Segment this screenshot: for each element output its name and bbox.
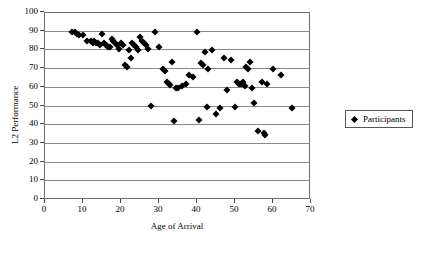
y-tick-label: 20 [12,157,38,166]
plot-area [44,12,310,199]
y-tick-mark [40,48,44,49]
y-tick-mark [40,86,44,87]
data-point [195,116,202,123]
scatter-chart: 0102030405060708090100 010203040506070 A… [0,0,431,256]
x-tick-mark [82,199,83,203]
legend-diamond-icon [351,115,358,122]
legend-label-participants: Participants [363,114,406,124]
gridline-y [45,31,309,32]
x-tick-mark [272,199,273,203]
data-point [148,102,155,109]
gridline-y [45,143,309,144]
x-tick-mark [310,199,311,203]
data-point [212,110,219,117]
gridline-y [45,180,309,181]
data-point [203,103,210,110]
data-point [125,47,132,54]
x-tick-label: 60 [262,205,282,214]
y-tick-mark [40,179,44,180]
gridline-y [45,49,309,50]
y-tick-label: 10 [12,175,38,184]
x-tick-label: 0 [34,205,54,214]
x-tick-label: 70 [300,205,320,214]
y-tick-mark [40,11,44,12]
x-axis-title: Age of Arrival [87,221,267,231]
y-tick-label: 100 [12,7,38,16]
data-point [269,66,276,73]
y-tick-mark [40,30,44,31]
data-point [169,58,176,65]
x-tick-label: 40 [186,205,206,214]
data-point [193,28,200,35]
x-tick-mark [44,199,45,203]
y-axis-title: L2 Performance [10,85,20,143]
x-tick-mark [234,199,235,203]
y-tick-mark [40,142,44,143]
x-tick-label: 50 [224,205,244,214]
y-tick-label: 80 [12,44,38,53]
data-point [249,84,256,91]
data-point [201,49,208,56]
x-tick-mark [196,199,197,203]
y-tick-mark [40,67,44,68]
data-point [262,131,269,138]
data-point [190,73,197,80]
data-point [231,103,238,110]
y-tick-label: 70 [12,63,38,72]
y-tick-label: 0 [12,194,38,203]
data-point [205,66,212,73]
gridline-y [45,124,309,125]
data-point [228,56,235,63]
data-point [220,54,227,61]
data-point [127,54,134,61]
data-point [123,64,130,71]
data-point [135,47,142,54]
data-point [247,58,254,65]
x-tick-label: 10 [72,205,92,214]
x-tick-label: 30 [148,205,168,214]
x-tick-mark [158,199,159,203]
data-point [245,66,252,73]
y-tick-mark [40,105,44,106]
y-tick-mark [40,161,44,162]
x-tick-mark [120,199,121,203]
gridline-y [45,162,309,163]
x-tick-label: 20 [110,205,130,214]
chart-legend: Participants [345,110,413,128]
y-tick-mark [40,123,44,124]
data-point [209,47,216,54]
data-point [152,28,159,35]
y-tick-label: 90 [12,26,38,35]
gridline-y [45,106,309,107]
data-point [277,71,284,78]
